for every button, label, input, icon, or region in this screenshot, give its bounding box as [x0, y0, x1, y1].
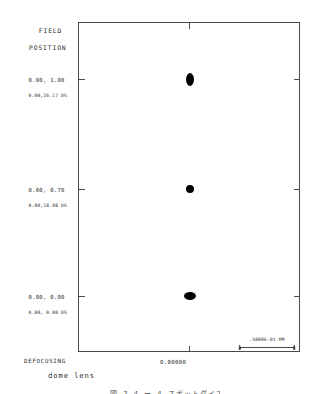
- field-position-angle-1: 0.00,18.98 DG: [28, 203, 67, 208]
- tick-top-center: [189, 23, 190, 29]
- tick-left-field-1: [79, 189, 85, 190]
- scale-bar: [237, 345, 297, 350]
- field-position-heading-line2: POSITION: [20, 44, 67, 53]
- spot-field-2: [184, 292, 196, 300]
- spot-field-0: [186, 73, 194, 86]
- field-position-label-2: 0.00, 0.00 0.00, 0.00 DG: [14, 287, 67, 324]
- field-position-relative-0: 0.00, 1.00: [28, 77, 64, 83]
- field-position-label-1: 0.00, 0.70 0.00,18.98 DG: [14, 180, 67, 217]
- tick-left-field-0: [79, 79, 85, 80]
- defocusing-value: 0.00000: [160, 359, 186, 365]
- field-position-angle-0: 0.00,26.17 DG: [28, 93, 67, 98]
- tick-right-field-2: [294, 296, 300, 297]
- scale-bar-cap-right: [294, 345, 295, 350]
- figure-caption: 図 2.4 ー 4 スポットダイアグラム: [110, 388, 220, 394]
- scale-bar-line: [239, 347, 295, 348]
- tick-bottom-center: [189, 346, 190, 352]
- spot-diagram-figure: FIELD POSITION 0.00, 1.00 0.00,26.17 DG …: [0, 0, 317, 394]
- tick-right-field-0: [294, 79, 300, 80]
- field-position-relative-1: 0.00, 0.70: [28, 187, 64, 193]
- defocusing-label: DEFOCUSING: [24, 358, 66, 364]
- field-position-angle-2: 0.00, 0.00 DG: [28, 310, 67, 315]
- field-position-relative-2: 0.00, 0.00: [28, 294, 64, 300]
- tick-right-field-1: [294, 189, 300, 190]
- field-position-heading: FIELD POSITION: [20, 18, 67, 69]
- field-position-heading-line1: FIELD: [39, 27, 62, 34]
- lens-title: dome lens: [48, 371, 95, 380]
- scale-bar-group: .5000E-01 MM: [237, 337, 297, 350]
- tick-left-field-2: [79, 296, 85, 297]
- spot-field-1: [186, 185, 194, 193]
- field-position-label-0: 0.00, 1.00 0.00,26.17 DG: [14, 70, 67, 107]
- scale-bar-label: .5000E-01 MM: [237, 337, 297, 343]
- scale-bar-cap-left: [239, 345, 240, 350]
